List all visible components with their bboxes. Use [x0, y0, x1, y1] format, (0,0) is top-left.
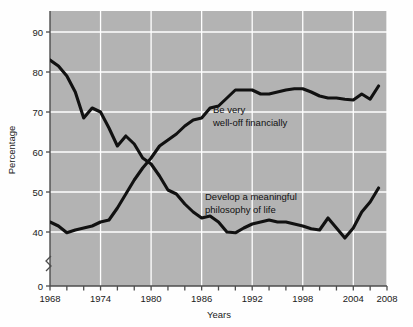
y-tick-label: 80 — [32, 67, 43, 78]
annotation-1-line-1: Develop a meaningful — [205, 191, 297, 202]
x-tick-label: 2004 — [343, 293, 364, 304]
y-tick-label: 90 — [32, 27, 43, 38]
x-axis-tick-labels: 19681974198019861992199820042008 — [39, 293, 397, 304]
x-tick-label: 1974 — [90, 293, 111, 304]
annotation-1-line-2: philosophy of life — [205, 204, 276, 215]
y-axis-tick-labels: 0405060708090 — [32, 27, 43, 292]
x-tick-label: 1992 — [242, 293, 263, 304]
y-tick-label: 40 — [32, 227, 43, 238]
line-chart-svg: 0405060708090 19681974198019861992199820… — [0, 0, 413, 327]
y-axis-title: Percentage — [6, 126, 17, 175]
x-axis-title: Years — [207, 309, 231, 320]
y-tick-label: 70 — [32, 107, 43, 118]
x-axis-ticks — [50, 286, 387, 291]
annotation-0-line-1: Be very — [213, 104, 245, 115]
annotation-0-line-2: well-off financially — [212, 117, 288, 128]
x-tick-label: 1998 — [292, 293, 313, 304]
y-tick-label: 50 — [32, 187, 43, 198]
y-tick-label: 60 — [32, 147, 43, 158]
chart-figure: 0405060708090 19681974198019861992199820… — [0, 0, 413, 327]
x-tick-label: 1986 — [191, 293, 212, 304]
y-tick-label: 0 — [38, 281, 43, 292]
x-tick-label: 2008 — [376, 293, 397, 304]
x-tick-label: 1980 — [141, 293, 162, 304]
x-tick-label: 1968 — [39, 293, 60, 304]
